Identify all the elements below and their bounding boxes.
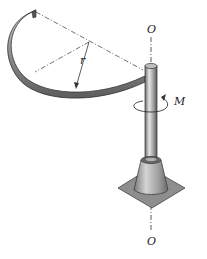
conical-support [134,156,168,194]
diameter-line [36,12,143,70]
moment-label: M [173,95,186,108]
axis-label-top: O [147,23,156,36]
diagram: r M O O [0,0,207,259]
axis-label-bottom: O [147,235,156,248]
radius-label: r [80,54,86,67]
shaft [145,63,157,158]
